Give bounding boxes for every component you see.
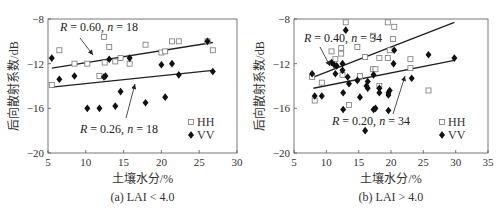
- hh-point: [408, 57, 413, 62]
- arrowhead-icon: [88, 50, 93, 55]
- y-tick-label: −16: [27, 102, 45, 114]
- vv-point: [96, 105, 102, 113]
- y-tick-label: −8: [32, 13, 44, 25]
- hh-point: [163, 49, 168, 54]
- fit-annotation: R = 0.60, n = 18: [59, 20, 138, 34]
- vv-point: [319, 92, 325, 100]
- hh-point: [85, 61, 90, 66]
- x-tick-label: 25: [194, 156, 206, 168]
- vv-point: [162, 93, 168, 101]
- fit-annotation: R = 0.40, n = 34: [303, 31, 382, 45]
- hh-point: [72, 61, 77, 66]
- y-axis-label: 后向散射系数/dB: [252, 41, 267, 130]
- scatter-chart-figure: 51015202530−8−12−16−20土壤水分/%后向散射系数/dB(a)…: [0, 0, 504, 213]
- x-tick-label: 5: [291, 156, 297, 168]
- arrowhead-icon: [131, 84, 136, 89]
- hh-point: [426, 88, 431, 93]
- hh-point: [169, 39, 174, 44]
- hh-point: [408, 66, 413, 71]
- hh-point: [329, 49, 334, 54]
- hh-point: [333, 57, 338, 62]
- vv-point: [71, 72, 77, 80]
- hh-point: [49, 82, 54, 87]
- y-tick-label: −20: [27, 147, 45, 159]
- panel-caption: (a) LAI < 4.0: [110, 190, 174, 204]
- vv-legend-icon: [439, 131, 445, 139]
- hh-point: [339, 51, 344, 56]
- vv-point: [112, 102, 118, 110]
- vv-point: [371, 71, 377, 79]
- hh-point: [118, 56, 123, 61]
- hh-point: [385, 56, 390, 61]
- x-tick-label: 5: [45, 156, 51, 168]
- vv-point: [362, 127, 368, 135]
- x-tick-label: 30: [450, 156, 462, 168]
- vv-point: [143, 99, 149, 107]
- x-tick-label: 10: [80, 156, 92, 168]
- fit-annotation: R = 0.26, n = 18: [79, 122, 158, 136]
- x-tick-label: 30: [232, 156, 244, 168]
- hh-point: [339, 46, 344, 51]
- vv-point: [376, 89, 382, 97]
- hh-point: [176, 39, 181, 44]
- x-axis-label: 土壤水分/%: [112, 171, 173, 186]
- hh-point: [373, 67, 378, 72]
- hh-point: [102, 60, 107, 65]
- vv-point: [49, 54, 55, 62]
- hh-point: [107, 44, 112, 49]
- x-tick-label: 20: [156, 156, 168, 168]
- fit-line-vv: [52, 70, 213, 87]
- x-tick-label: 10: [321, 156, 333, 168]
- vv-point: [118, 88, 124, 96]
- hh-point: [392, 24, 397, 29]
- vv-point: [340, 106, 346, 114]
- arrowhead-icon: [401, 76, 406, 82]
- hh-point: [346, 102, 351, 107]
- fit-annotation: R = 0.20, n = 34: [331, 114, 410, 128]
- chart-panel-b: 5101520253035−8−12−16−20土壤水分/%后向散射系数/dB(…: [252, 13, 494, 204]
- vv-point: [340, 89, 346, 97]
- x-tick-label: 35: [483, 156, 495, 168]
- legend-label-hh: HH: [197, 115, 215, 129]
- vv-point: [56, 76, 62, 84]
- vv-point: [345, 73, 351, 81]
- hh-point: [57, 48, 62, 53]
- legend: HHVV: [439, 115, 466, 142]
- x-axis-label: 土壤水分/%: [360, 171, 421, 186]
- vv-point: [84, 105, 90, 113]
- x-tick-label: 15: [118, 156, 130, 168]
- y-tick-label: −12: [273, 58, 290, 70]
- y-tick-label: −12: [27, 58, 44, 70]
- annotation-arrow: [393, 76, 405, 114]
- hh-point: [363, 54, 368, 59]
- y-axis-label: 后向散射系数/dB: [6, 41, 21, 130]
- annotation-arrow: [126, 84, 135, 118]
- vv-point: [357, 93, 363, 101]
- vv-point: [332, 70, 338, 78]
- vv-point: [210, 68, 216, 76]
- hh-point: [390, 37, 395, 42]
- legend-label-vv: VV: [197, 128, 215, 142]
- hh-point: [385, 20, 390, 25]
- hh-point: [127, 61, 132, 66]
- y-tick-label: −16: [273, 102, 291, 114]
- legend-label-hh: HH: [448, 115, 466, 129]
- vv-point: [169, 60, 175, 68]
- hh-point: [319, 80, 324, 85]
- hh-point: [101, 34, 106, 39]
- hh-point: [210, 48, 215, 53]
- hh-point: [343, 20, 348, 25]
- y-tick-label: −8: [278, 13, 290, 25]
- hh-point: [377, 56, 382, 61]
- hh-point: [97, 73, 102, 78]
- vv-point: [426, 51, 432, 59]
- vv-point: [409, 74, 415, 82]
- x-tick-label: 25: [418, 156, 430, 168]
- hh-point: [113, 59, 118, 64]
- y-tick-label: −20: [273, 147, 291, 159]
- hh-point: [143, 42, 148, 47]
- panel-caption: (b) LAI > 4.0: [359, 190, 424, 204]
- vv-point: [391, 60, 397, 68]
- x-tick-label: 15: [353, 156, 365, 168]
- hh-legend-icon: [189, 120, 194, 125]
